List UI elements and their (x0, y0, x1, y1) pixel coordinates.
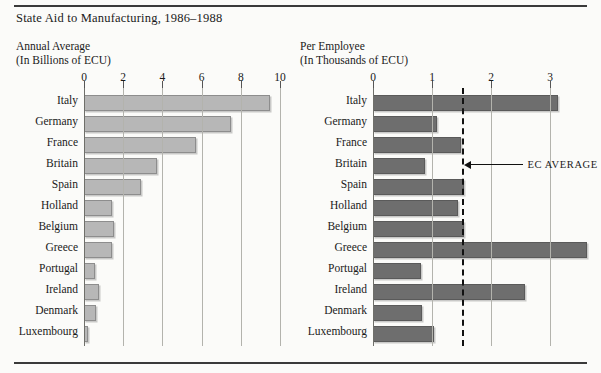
category-label-germany: Germany (16, 115, 78, 127)
bar-belgium (373, 221, 464, 237)
bottom-rule (14, 362, 587, 364)
tick-mark (550, 81, 551, 88)
left-chart: 0246810 ItalyGermanyFranceBritainSpainHo… (16, 71, 284, 346)
category-label-greece: Greece (16, 241, 78, 253)
category-label-belgium: Belgium (300, 220, 367, 232)
category-label-france: France (16, 136, 78, 148)
gridline (123, 88, 124, 346)
tick-mark (84, 81, 85, 88)
left-panel-heading: Annual Average (In Billions of ECU) (16, 40, 111, 67)
category-label-luxembourg: Luxembourg (300, 325, 367, 337)
ec-average-line (462, 88, 464, 346)
bar-luxembourg (373, 326, 434, 342)
category-label-luxembourg: Luxembourg (16, 325, 78, 337)
bar-germany (373, 116, 437, 132)
left-plot-area: ItalyGermanyFranceBritainSpainHollandBel… (16, 88, 284, 346)
bar-row: Italy (300, 92, 586, 113)
bar-belgium (84, 221, 114, 237)
tick-mark (491, 81, 492, 88)
bar-row: Luxembourg (300, 323, 586, 344)
right-chart-title: Per Employee (300, 40, 408, 54)
chart-page: { "title": "State Aid to Manufacturing, … (0, 0, 601, 373)
axis-baseline (84, 88, 85, 346)
category-label-greece: Greece (300, 241, 367, 253)
left-bar-rows: ItalyGermanyFranceBritainSpainHollandBel… (16, 88, 284, 344)
right-chart-subtitle: (In Thousands of ECU) (300, 54, 408, 68)
ec-average-label: EC AVERAGE (528, 159, 598, 170)
bar-germany (84, 116, 231, 132)
top-rule (14, 5, 587, 7)
bar-spain (373, 179, 464, 195)
bar-row: France (300, 134, 586, 155)
right-panel-heading: Per Employee (In Thousands of ECU) (300, 40, 408, 67)
bar-holland (84, 200, 112, 216)
category-label-spain: Spain (300, 178, 367, 190)
page-title: State Aid to Manufacturing, 1986–1988 (16, 11, 222, 26)
category-label-ireland: Ireland (300, 283, 367, 295)
category-label-belgium: Belgium (16, 220, 78, 232)
category-label-holland: Holland (16, 199, 78, 211)
bar-ireland (84, 284, 99, 300)
tick-mark (280, 81, 281, 88)
bar-row: Germany (16, 113, 284, 134)
category-label-britain: Britain (300, 157, 367, 169)
ec-average-annotation: EC AVERAGE (464, 159, 598, 170)
left-axis-labels: 0246810 (16, 71, 284, 88)
bar-row: Holland (300, 197, 586, 218)
bar-portugal (373, 263, 421, 279)
bar-row: Italy (16, 92, 284, 113)
bar-greece (84, 242, 112, 258)
category-label-portugal: Portugal (300, 262, 367, 274)
category-label-france: France (300, 136, 367, 148)
gridline (491, 88, 492, 346)
bar-row: Belgium (16, 218, 284, 239)
bar-row: Luxembourg (16, 323, 284, 344)
category-label-denmark: Denmark (300, 304, 367, 316)
tick-mark (373, 81, 374, 88)
bar-row: Ireland (16, 281, 284, 302)
category-label-denmark: Denmark (16, 304, 78, 316)
tick-mark (202, 81, 203, 88)
category-label-ireland: Ireland (16, 283, 78, 295)
category-label-italy: Italy (16, 94, 78, 106)
bar-denmark (373, 305, 422, 321)
bar-row: Holland (16, 197, 284, 218)
left-chart-subtitle: (In Billions of ECU) (16, 54, 111, 68)
category-label-britain: Britain (16, 157, 78, 169)
bar-row: Portugal (16, 260, 284, 281)
category-label-holland: Holland (300, 199, 367, 211)
right-plot-area: ItalyGermanyFranceBritainSpainHollandBel… (300, 88, 586, 346)
bar-britain (84, 158, 157, 174)
category-label-italy: Italy (300, 94, 367, 106)
tick-mark (432, 81, 433, 88)
bar-france (373, 137, 461, 153)
bar-row: Denmark (16, 302, 284, 323)
category-label-spain: Spain (16, 178, 78, 190)
axis-baseline (373, 88, 374, 346)
bar-denmark (84, 305, 96, 321)
bar-row: Britain (16, 155, 284, 176)
arrow-left-icon (464, 161, 471, 169)
gridline (202, 88, 203, 346)
left-chart-title: Annual Average (16, 40, 111, 54)
bar-ireland (373, 284, 525, 300)
tick-mark (241, 81, 242, 88)
bar-spain (84, 179, 141, 195)
annotation-leader-line (471, 164, 523, 165)
bar-row: Belgium (300, 218, 586, 239)
gridline (162, 88, 163, 346)
bar-row: Portugal (300, 260, 586, 281)
right-axis-labels: 0123 (300, 71, 586, 88)
bar-row: Ireland (300, 281, 586, 302)
bar-italy (373, 95, 558, 111)
bar-row: Greece (16, 239, 284, 260)
gridline (432, 88, 433, 346)
bar-row: Spain (16, 176, 284, 197)
bar-portugal (84, 263, 95, 279)
category-label-portugal: Portugal (16, 262, 78, 274)
category-label-germany: Germany (300, 115, 367, 127)
bar-row: Germany (300, 113, 586, 134)
tick-mark (162, 81, 163, 88)
bar-row: France (16, 134, 284, 155)
gridline (241, 88, 242, 346)
